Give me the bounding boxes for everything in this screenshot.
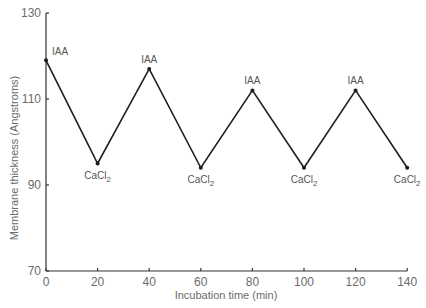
- x-axis-title: Incubation time (min): [175, 289, 278, 301]
- subscript: 2: [313, 179, 318, 188]
- x-tick-label: 80: [246, 275, 260, 289]
- x-tick-label: 0: [43, 275, 50, 289]
- axes: 7090110130020406080100120140: [21, 6, 418, 289]
- x-tick-label: 100: [294, 275, 314, 289]
- iaa-label: IAA: [141, 54, 157, 65]
- data-point: [302, 166, 306, 170]
- y-tick-label: 90: [28, 178, 42, 192]
- x-tick-label: 120: [346, 275, 366, 289]
- data-point: [405, 166, 409, 170]
- annotations: IAACaCl2IAACaCl2IAACaCl2IAACaCl2: [52, 46, 421, 188]
- subscript: 2: [416, 179, 421, 188]
- y-tick-label: 110: [22, 92, 41, 106]
- data-point: [250, 88, 254, 92]
- iaa-label: IAA: [52, 46, 68, 57]
- y-tick-label: 130: [21, 6, 41, 20]
- y-axis-title: Membrane thickness (Angstroms): [8, 76, 20, 240]
- line-chart: 7090110130020406080100120140 IAACaCl2IAA…: [0, 0, 426, 308]
- y-tick-label: 70: [28, 264, 42, 278]
- cacl2-label: CaCl2: [84, 170, 111, 184]
- x-tick-label: 140: [397, 275, 417, 289]
- x-tick-label: 20: [91, 275, 105, 289]
- data-point: [199, 166, 203, 170]
- cacl2-label: CaCl2: [291, 174, 318, 188]
- subscript: 2: [106, 175, 111, 184]
- cacl2-label: CaCl2: [187, 174, 214, 188]
- cacl2-label: CaCl2: [394, 174, 421, 188]
- iaa-label: IAA: [244, 75, 260, 86]
- data-point: [96, 162, 100, 166]
- data-point: [44, 58, 48, 62]
- data-point: [147, 67, 151, 71]
- iaa-label: IAA: [348, 75, 364, 86]
- x-tick-label: 40: [143, 275, 157, 289]
- data-point: [354, 88, 358, 92]
- subscript: 2: [210, 179, 215, 188]
- x-tick-label: 60: [194, 275, 208, 289]
